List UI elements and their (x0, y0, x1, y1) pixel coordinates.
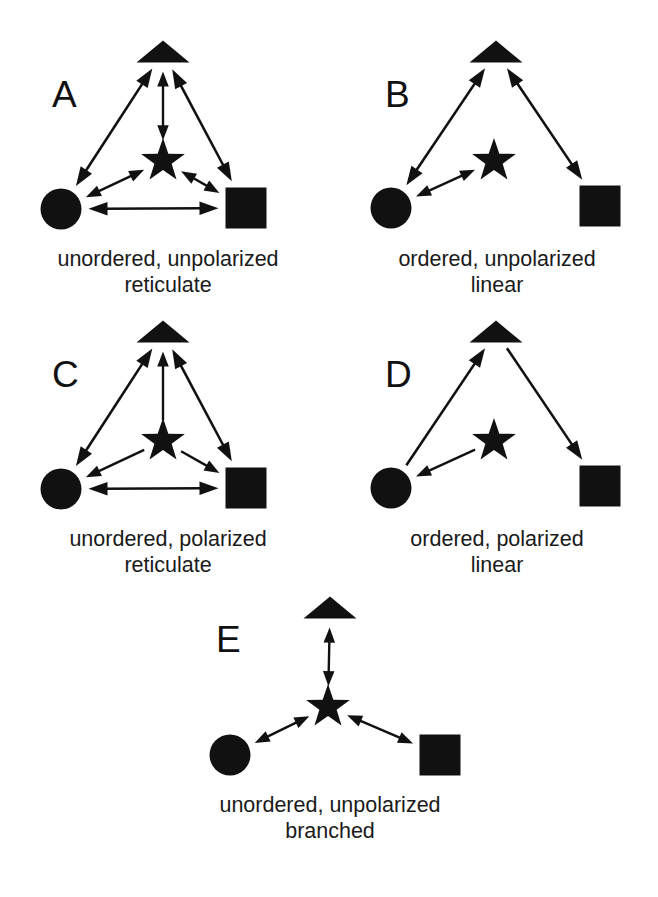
star-glyph (141, 418, 185, 460)
arrowhead-star-triangle-start (323, 671, 334, 686)
connection-d-triangle-square (507, 348, 582, 459)
arrowhead-star-circle-start (293, 716, 309, 728)
connection-e-star-circle (255, 716, 310, 743)
arrowhead-circle-triangle-end (469, 348, 485, 368)
panel-d: Dordered, polarizedlinear (371, 320, 621, 577)
caption-line-d-1: ordered, polarized (410, 527, 583, 551)
arrowhead-triangle-square-end (217, 161, 232, 181)
arrowhead-star-triangle-start (157, 125, 169, 140)
arrowhead-star-circle-end (86, 186, 102, 198)
arrowhead-star-circle-start (459, 170, 475, 181)
arrowhead-triangle-square-start (172, 349, 187, 369)
caption-line-d-2: linear (471, 553, 524, 577)
connector-line-circle-triangle (414, 80, 477, 174)
connector-line-star-square (357, 719, 403, 739)
caption-line-c-2: reticulate (124, 553, 211, 577)
arrowhead-circle-square-start (88, 482, 107, 495)
circle-glyph (41, 469, 82, 510)
arrowhead-circle-square-end (199, 482, 218, 495)
connector-line-circle-triangle (406, 360, 477, 466)
connector-line-circle-square (102, 208, 205, 209)
connection-a-circle-square (88, 202, 218, 216)
connection-e-star-square (347, 715, 413, 743)
panel-a: Aunordered, unpolarizedreticulate (41, 40, 279, 297)
caption-line-b-1: ordered, unpolarized (398, 247, 595, 271)
caption-line-e-2: branched (285, 819, 375, 843)
arrowhead-triangle-square-start (507, 68, 523, 88)
square-glyph (580, 466, 621, 507)
connector-line-triangle-square (179, 81, 226, 169)
arrowhead-circle-triangle-end (136, 68, 152, 88)
arrowhead-triangle-square-end (217, 441, 232, 461)
square-glyph (580, 186, 621, 227)
connector-line-star-square (181, 451, 210, 467)
diagram-canvas: Aunordered, unpolarizedreticulateBordere… (0, 0, 658, 897)
panel-letter-c: C (52, 354, 79, 395)
star-glyph (141, 138, 185, 180)
circle-glyph (41, 189, 82, 230)
arrowhead-star-triangle-end (157, 72, 169, 87)
panel-caption-d: ordered, polarizedlinear (410, 527, 583, 577)
arrowhead-star-triangle-end (157, 352, 169, 367)
panel-e: Eunordered, unpolarizedbranched (210, 596, 461, 843)
arrowhead-star-circle-end (416, 465, 432, 476)
arrowhead-circle-triangle-start (76, 166, 92, 186)
connection-b-star-circle (416, 170, 475, 197)
connector-line-circle-square (102, 488, 205, 489)
connector-line-triangle-square (515, 80, 575, 169)
panel-caption-c: unordered, polarizedreticulate (69, 527, 266, 577)
connection-d-circle-triangle (406, 348, 485, 465)
square-glyph (226, 188, 267, 229)
figure-root: Aunordered, unpolarizedreticulateBordere… (0, 0, 658, 897)
panel-letter-d: D (385, 354, 412, 395)
connector-line-triangle-square (179, 361, 226, 449)
triangle-glyph (470, 40, 523, 62)
triangle-glyph (137, 40, 190, 62)
arrowhead-star-square-end (204, 461, 220, 473)
circle-glyph (371, 188, 412, 229)
connector-line-triangle-square (507, 348, 575, 448)
connection-c-circle-square (88, 482, 218, 496)
caption-line-b-2: linear (471, 273, 524, 297)
connection-a-circle-triangle (76, 68, 152, 186)
panel-caption-b: ordered, unpolarizedlinear (398, 247, 595, 297)
caption-line-c-1: unordered, polarized (69, 527, 266, 551)
connector-line-star-circle (96, 174, 135, 192)
connector-line-star-triangle (329, 638, 330, 675)
arrowhead-triangle-square-start (172, 69, 187, 89)
panel-letter-b: B (385, 74, 410, 115)
arrowhead-circle-square-start (88, 202, 107, 215)
arrowhead-circle-triangle-end (469, 68, 485, 88)
arrowhead-star-circle-end (416, 185, 432, 196)
connector-line-circle-triangle (83, 80, 144, 175)
star-glyph (306, 684, 350, 726)
arrowhead-triangle-square-end (566, 160, 582, 180)
arrowhead-star-circle-end (255, 731, 271, 743)
connector-line-circle-triangle (83, 360, 144, 455)
square-glyph (420, 735, 461, 776)
arrowhead-circle-square-end (199, 202, 218, 215)
square-glyph (226, 468, 267, 509)
triangle-glyph (137, 320, 190, 342)
connection-a-star-triangle (157, 72, 169, 141)
caption-line-a-2: reticulate (124, 273, 211, 297)
circle-glyph (210, 735, 251, 776)
connector-line-star-circle (264, 721, 299, 738)
connection-c-star-triangle (157, 352, 169, 421)
arrowhead-star-circle-start (128, 170, 144, 182)
connection-c-star-square (181, 451, 219, 473)
arrowhead-circle-triangle-end (136, 348, 152, 368)
triangle-glyph (304, 596, 357, 618)
connection-b-circle-triangle (406, 68, 485, 185)
star-glyph (472, 138, 516, 180)
connection-c-circle-triangle (76, 348, 152, 466)
connection-c-star-circle (86, 450, 144, 477)
caption-line-a-1: unordered, unpolarized (57, 247, 278, 271)
arrowhead-circle-triangle-start (76, 446, 92, 466)
connection-a-star-circle (86, 170, 144, 197)
arrowhead-star-square-end (397, 732, 413, 743)
connection-e-star-triangle (323, 628, 335, 687)
arrowhead-star-square-start (347, 715, 363, 726)
arrowhead-star-circle-end (86, 466, 102, 478)
panel-caption-e: unordered, unpolarizedbranched (219, 793, 440, 843)
